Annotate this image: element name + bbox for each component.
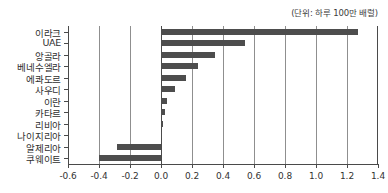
bar-row — [68, 130, 378, 142]
y-axis-tick — [64, 89, 68, 90]
x-axis-tick — [285, 164, 286, 168]
x-axis-tick-label: -0.4 — [90, 171, 107, 181]
bar-row — [68, 49, 378, 61]
x-axis-tick-label: 1.0 — [309, 171, 323, 181]
bar-row — [68, 26, 378, 38]
x-axis-tick — [161, 164, 162, 168]
y-axis-tick — [64, 43, 68, 44]
bar — [161, 98, 167, 104]
bar — [161, 132, 162, 138]
x-axis-tick-label: -0.2 — [121, 171, 138, 181]
y-axis-tick — [64, 158, 68, 159]
bar-row — [68, 84, 378, 96]
bar — [117, 144, 161, 150]
bar-row — [68, 107, 378, 119]
bar — [161, 40, 245, 46]
bar-row — [68, 141, 378, 153]
x-axis-tick — [223, 164, 224, 168]
y-axis-tick — [64, 78, 68, 79]
x-axis-tick-label: 0.4 — [216, 171, 230, 181]
y-axis-tick — [64, 66, 68, 67]
x-axis-tick — [68, 164, 69, 168]
bar — [161, 86, 175, 92]
bar-row — [68, 153, 378, 165]
x-axis-tick — [347, 164, 348, 168]
x-axis-tick — [254, 164, 255, 168]
bar — [161, 121, 163, 127]
x-axis-tick — [99, 164, 100, 168]
y-axis-tick — [64, 147, 68, 148]
y-axis-category-label: 쿠웨이트 — [0, 152, 61, 166]
x-axis-tick-label: 0.2 — [185, 171, 199, 181]
bar — [161, 63, 198, 69]
x-axis-tick — [130, 164, 131, 168]
x-axis-tick-label: 0.8 — [278, 171, 292, 181]
y-axis-tick — [64, 135, 68, 136]
y-axis-tick — [64, 55, 68, 56]
bar-row — [68, 95, 378, 107]
chart-container: (단위: 하루 100만 배럴) -0.6-0.4-0.20.00.20.40.… — [0, 0, 388, 193]
x-axis-tick-label: -0.6 — [59, 171, 76, 181]
bar — [99, 155, 161, 161]
chart-unit-note: (단위: 하루 100만 배럴) — [291, 6, 378, 18]
bar — [161, 52, 215, 58]
x-axis-tick — [378, 164, 379, 168]
bar-row — [68, 61, 378, 73]
x-axis-tick-label: 1.4 — [371, 171, 385, 181]
bar-row — [68, 72, 378, 84]
y-axis-tick — [64, 32, 68, 33]
y-axis-tick — [64, 112, 68, 113]
x-axis-tick-label: 1.2 — [340, 171, 354, 181]
x-axis-tick-label: 0.6 — [247, 171, 261, 181]
x-axis-tick-label: 0.0 — [154, 171, 168, 181]
y-axis-category-label: UAE — [0, 37, 61, 48]
bar — [161, 29, 358, 35]
plot-area: -0.6-0.4-0.20.00.20.40.60.81.01.21.4 — [68, 26, 378, 164]
bar-row — [68, 38, 378, 50]
y-axis-tick — [64, 101, 68, 102]
bar — [161, 109, 165, 115]
x-axis-tick — [192, 164, 193, 168]
bar — [161, 75, 186, 81]
y-axis-tick — [64, 124, 68, 125]
bar-row — [68, 118, 378, 130]
x-axis-tick — [316, 164, 317, 168]
